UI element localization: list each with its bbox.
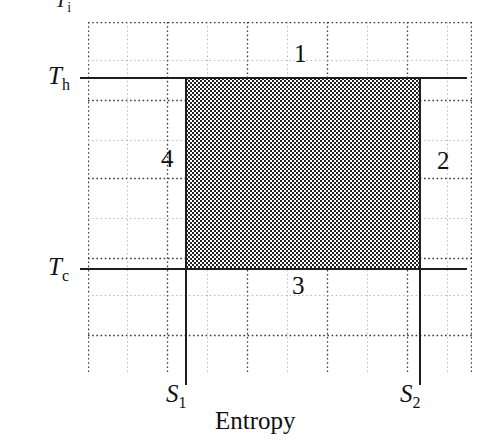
x-tick-label-s1: S1 xyxy=(166,380,187,412)
cropped-caption-symbol: T xyxy=(55,0,67,12)
x-tick-s1-symbol: S xyxy=(166,380,179,407)
x-tick-s2-subscript: 2 xyxy=(413,394,421,411)
ts-diagram-figure: Ti xyxy=(0,0,483,443)
x-tick-s1-subscript: 1 xyxy=(179,394,187,411)
y-tick-th-symbol: T xyxy=(48,62,62,89)
x-tick-label-s2: S2 xyxy=(400,380,421,412)
net-work-shaded-area xyxy=(186,78,420,269)
y-tick-label-tc: Tc xyxy=(48,253,69,285)
y-tick-tc-subscript: c xyxy=(62,267,69,284)
cropped-caption-fragment: Ti xyxy=(55,0,72,16)
x-axis-title: Entropy xyxy=(215,407,296,435)
adiabat-s1-line xyxy=(185,77,187,385)
y-tick-tc-symbol: T xyxy=(48,253,62,280)
isotherm-cold-line xyxy=(80,268,467,270)
process-label-2: 2 xyxy=(437,147,450,175)
x-tick-s2-symbol: S xyxy=(400,380,413,407)
process-label-3: 3 xyxy=(292,272,305,300)
y-tick-th-subscript: h xyxy=(62,76,70,93)
cropped-caption-subscript: i xyxy=(67,0,71,15)
process-label-4: 4 xyxy=(161,145,174,173)
isotherm-hot-line xyxy=(80,77,467,79)
adiabat-s2-line xyxy=(419,77,421,385)
y-tick-label-th: Th xyxy=(48,62,70,94)
process-label-1: 1 xyxy=(294,40,307,68)
